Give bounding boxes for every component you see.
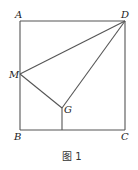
square-abcd [20,21,125,130]
label-g: G [64,104,72,115]
label-a: A [14,9,22,20]
label-d: D [120,9,129,20]
segment-dg [62,21,125,108]
label-m: M [8,69,20,80]
figure-caption: 图 1 [62,151,82,162]
segment-dm [20,21,125,74]
geometry-figure: A D B C M G 图 1 [0,0,138,170]
label-b: B [13,131,21,142]
segment-mg [20,74,62,108]
label-c: C [121,131,129,142]
